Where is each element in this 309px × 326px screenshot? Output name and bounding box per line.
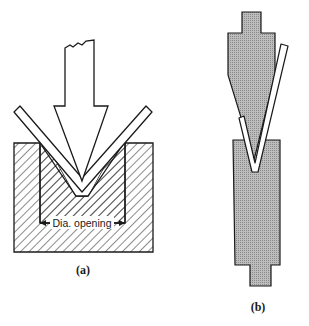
panel-b-label: (b) — [251, 300, 266, 314]
press-brake-diagram: Dia. opening (a) (b) — [0, 0, 309, 326]
dimension-dia-opening: Dia. opening — [40, 216, 125, 229]
upper-punch — [228, 12, 275, 160]
panel-b: (b) — [228, 12, 288, 314]
panel-a: Dia. opening (a) — [14, 40, 153, 277]
panel-a-label: (a) — [76, 263, 90, 277]
dia-opening-label: Dia. opening — [53, 217, 112, 229]
